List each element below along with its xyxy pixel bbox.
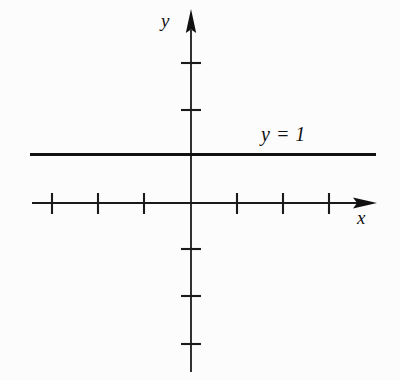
y-axis-group bbox=[181, 9, 201, 372]
x-axis-label: x bbox=[357, 208, 365, 227]
coordinate-plane-figure: y x y = 1 bbox=[0, 0, 400, 380]
function-equation-label: y = 1 bbox=[261, 124, 306, 144]
x-axis-group bbox=[32, 193, 377, 214]
y-axis-label: y bbox=[161, 11, 169, 30]
y-axis-arrowhead-icon bbox=[186, 9, 196, 33]
graph-canvas bbox=[0, 0, 400, 380]
